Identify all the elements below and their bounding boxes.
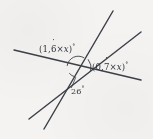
right-angle-arc: [88, 60, 91, 71]
bottom-angle-value: 26: [71, 87, 81, 96]
bottom-angle-label: 26°: [71, 85, 85, 96]
left-angle-degree-symbol: °: [72, 42, 75, 49]
right-angle-degree-symbol: °: [125, 60, 128, 67]
right-angle-label: (0,7×x)°: [92, 61, 128, 71]
figure-canvas: [0, 0, 153, 139]
right-angle-times-symbol: ×: [109, 62, 116, 72]
right-angle-repeating-digit: 7: [104, 63, 110, 72]
geometry-figure: (1,6×x)° (0,7×x)° 26°: [0, 0, 153, 139]
left-angle-times-symbol: ×: [56, 44, 63, 54]
bottom-angle-degree-symbol: °: [81, 84, 84, 91]
left-angle-label: (1,6×x)°: [39, 43, 75, 53]
left-angle-repeating-digit: 6: [51, 45, 57, 54]
lower-angle-arc: [70, 74, 76, 77]
